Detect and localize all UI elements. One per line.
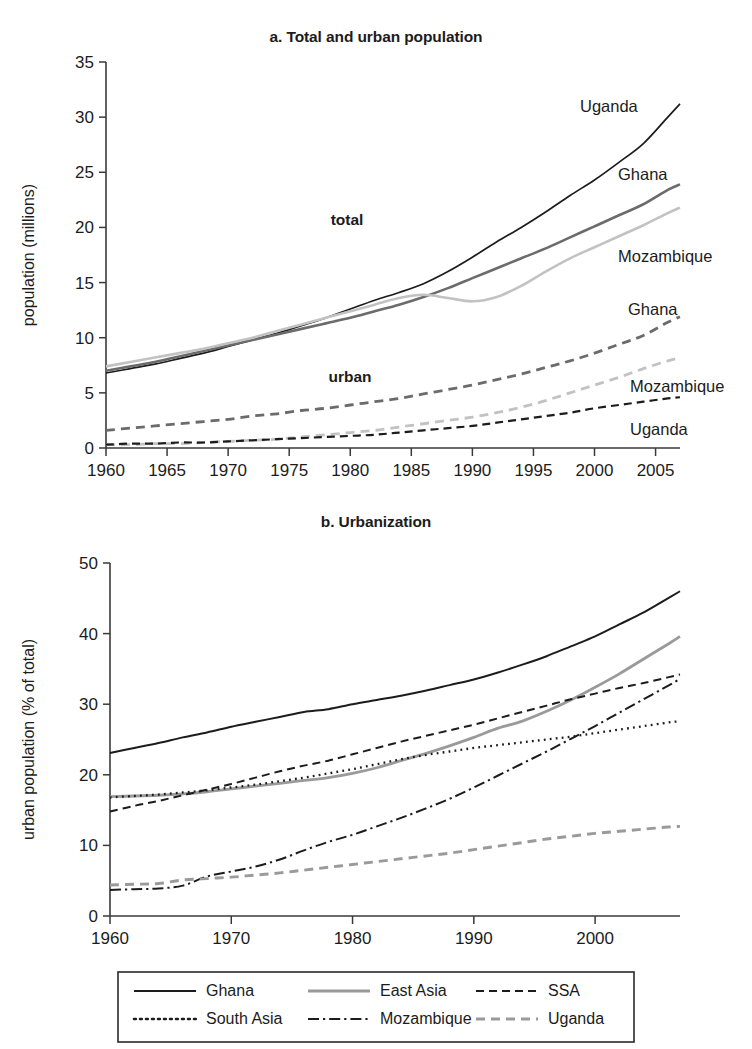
panel-a-x-tick-label: 2005 [637,461,675,480]
panel-a-mozambique-urban-label: Mozambique [630,377,724,395]
panel-b-y-axis-label: urban population (% of total) [20,639,37,840]
panel-a-y-tick-label: 20 [75,218,94,237]
panel-b-x-tick-label: 2000 [576,929,614,948]
panel-a-y-tick-label: 25 [75,163,94,182]
panel-b-x-tick-label: 1980 [334,929,372,948]
panel-b-y-tick-label: 40 [79,625,98,644]
panel-b-chart: b. Urbanization0102030405019601970198019… [20,513,680,948]
panel-b-series-ghana [110,591,680,753]
panel-a-series-uganda-urban [106,397,680,444]
panel-a-y-tick-label: 15 [75,274,94,293]
panel-b-y-tick-label: 0 [89,907,98,926]
panel-a-series-uganda-total [106,104,680,373]
panel-b-x-tick-label: 1970 [212,929,250,948]
panel-a-x-tick-label: 1960 [87,461,125,480]
panel-b-y-tick-label: 10 [79,836,98,855]
panel-a-x-tick-label: 1990 [453,461,491,480]
legend-label: South Asia [206,1010,283,1027]
panel-a-title: a. Total and urban population [270,28,483,45]
chart-legend: GhanaEast AsiaSSASouth AsiaMozambiqueUga… [118,972,634,1042]
panel-b-series-uganda [110,826,680,885]
panel-a-x-tick-label: 1965 [148,461,186,480]
panel-b-x-tick-label: 1990 [455,929,493,948]
panel-b-series-south-asia [110,721,680,797]
panel-a-ghana-urban-label: Ghana [628,300,678,318]
panel-a-uganda-total-label: Uganda [580,97,639,115]
panel-a-y-tick-label: 0 [85,439,94,458]
panel-a-x-tick-label: 1970 [209,461,247,480]
panel-a-total-annotation: total [331,211,364,228]
legend-label: East Asia [380,982,447,999]
panel-a-x-tick-label: 1975 [270,461,308,480]
panel-b-title: b. Urbanization [321,513,431,530]
panel-a-y-tick-label: 35 [75,53,94,72]
panel-b-y-tick-label: 30 [79,695,98,714]
panel-a-series-ghana-urban [106,317,680,431]
panel-a-y-tick-label: 30 [75,108,94,127]
panel-a-ghana-total-label: Ghana [618,165,668,183]
legend-label: Mozambique [380,1010,472,1027]
panel-a-x-tick-label: 1995 [515,461,553,480]
figure-container: a. Total and urban population05101520253… [0,0,752,1049]
panel-b-y-tick-label: 20 [79,766,98,785]
panel-a-mozambique-total-label: Mozambique [618,247,712,265]
panel-b-y-tick-label: 50 [79,554,98,573]
panel-a-series-mozambique-urban [106,358,680,445]
legend-label: SSA [548,982,580,999]
panel-a-series-mozambique-total [106,208,680,367]
panel-a-y-tick-label: 10 [75,329,94,348]
panel-a-chart: a. Total and urban population05101520253… [20,28,724,480]
panel-a-urban-annotation: urban [328,368,371,385]
legend-label: Ghana [206,982,254,999]
panel-a-y-tick-label: 5 [85,384,94,403]
panel-a-x-tick-label: 1980 [331,461,369,480]
panel-b-x-tick-label: 1960 [91,929,129,948]
panel-b-series-east-asia [110,636,680,796]
panel-a-x-tick-label: 1985 [392,461,430,480]
panel-a-y-axis-label: population (millions) [20,184,37,326]
panel-a-uganda-urban-label: Uganda [630,420,689,438]
panel-a-x-tick-label: 2000 [576,461,614,480]
legend-label: Uganda [548,1010,604,1027]
panel-a-series-ghana-total [106,184,680,370]
population-urbanization-figure: a. Total and urban population05101520253… [0,0,752,1049]
